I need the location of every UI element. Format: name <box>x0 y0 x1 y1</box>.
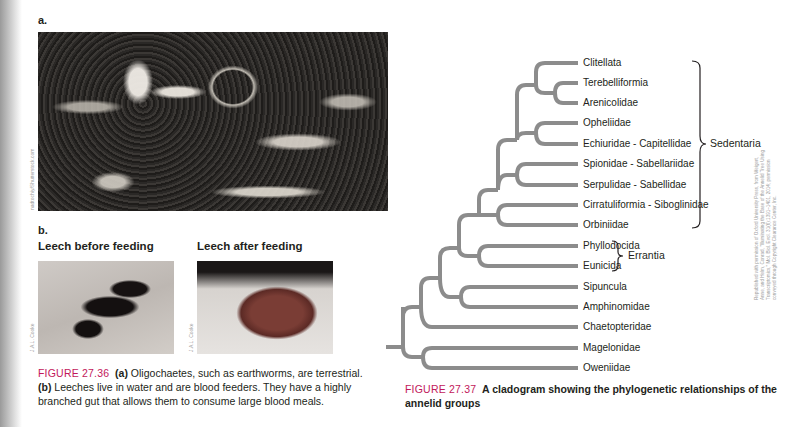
taxon-label: Terebelliformia <box>583 77 648 89</box>
taxon-label: Orbiniidae <box>583 219 629 231</box>
taxon-label: Arenicolidae <box>583 97 638 109</box>
taxon-label: Echiuridae - Capitellidae <box>583 138 691 150</box>
taxon-label: Spionidae - Sabellariidae <box>583 158 694 170</box>
group-label-errantia: Errantia <box>628 249 665 261</box>
taxon-label: Chaetopteridae <box>583 321 651 333</box>
group-label-sedentaria: Sedentaria <box>710 137 761 149</box>
taxon-label: Sipuncula <box>583 281 627 293</box>
taxon-label: Magelonidae <box>583 342 640 354</box>
taxon-label: Serpulidae - Sabellidae <box>583 179 686 191</box>
cladogram-branches <box>0 0 799 427</box>
figure-number: FIGURE 27.37 <box>405 383 476 395</box>
taxon-label: Eunicida <box>583 260 621 272</box>
taxon-label: Cirratuliformia - Siboglinidae <box>583 199 709 211</box>
taxon-label: Amphinomidae <box>583 301 650 313</box>
figure-27-37-caption: FIGURE 27.37 A cladogram showing the phy… <box>405 382 785 410</box>
taxon-label: Opheliidae <box>583 117 631 129</box>
taxon-label: Clitellata <box>583 57 621 69</box>
taxon-label: Oweniidae <box>583 362 630 374</box>
cladogram-credit: Republished with permission of Oxford Un… <box>754 150 778 300</box>
